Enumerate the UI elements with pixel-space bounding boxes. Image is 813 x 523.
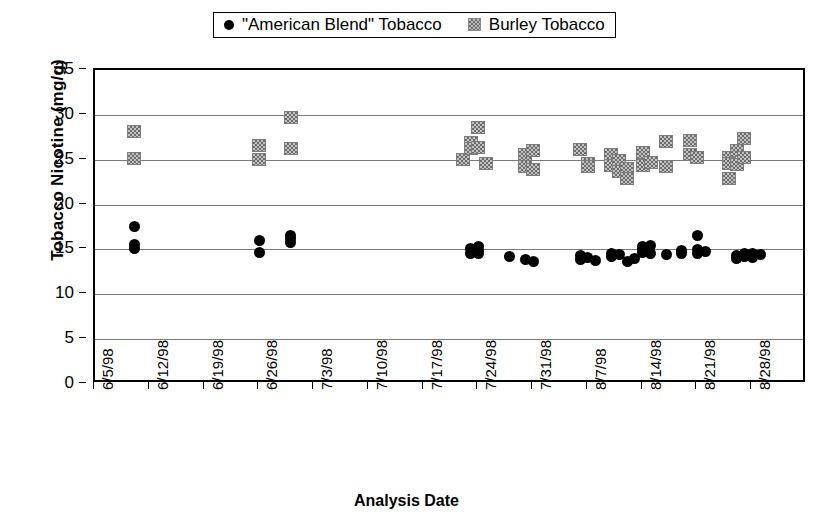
plot-area: [93, 68, 805, 382]
square-marker-icon: [468, 18, 481, 31]
data-point-burley: [526, 163, 540, 176]
x-tick-label: 7/24/98: [482, 340, 499, 390]
data-point-american-blend: [590, 255, 601, 266]
data-point-burley: [252, 139, 266, 152]
x-axis-tick-labels: 6/5/986/12/986/19/986/26/987/3/987/10/98…: [0, 386, 813, 486]
data-point-burley: [737, 151, 751, 164]
data-point-burley: [659, 135, 673, 148]
y-tick-mark: [79, 292, 86, 293]
y-tick-mark: [79, 337, 86, 338]
x-axis-title: Analysis Date: [0, 492, 813, 510]
data-point-american-blend: [254, 235, 265, 246]
data-point-burley: [644, 156, 658, 169]
data-point-american-blend: [692, 230, 703, 241]
data-point-american-blend: [504, 251, 515, 262]
x-tick-label: 8/28/98: [756, 340, 773, 390]
data-point-burley: [722, 172, 736, 185]
x-tick-label: 7/3/98: [318, 348, 335, 390]
x-tick-label: 6/19/98: [209, 340, 226, 390]
data-point-american-blend: [473, 248, 484, 259]
data-point-american-blend: [676, 248, 687, 259]
y-axis-tick-labels: 05101520253035: [0, 68, 86, 382]
data-point-american-blend: [645, 248, 656, 259]
x-tick-label: 8/21/98: [701, 340, 718, 390]
y-tick-label: 30: [55, 104, 74, 121]
x-tick-label: 8/7/98: [592, 348, 609, 390]
data-point-american-blend: [129, 221, 140, 232]
legend-entry-burley: Burley Tobacco: [468, 16, 605, 33]
data-point-burley: [252, 153, 266, 166]
nicotine-scatter-chart: "American Blend" Tobacco Burley Tobacco …: [0, 0, 813, 523]
gridline: [95, 294, 803, 295]
y-tick-label: 20: [55, 194, 74, 211]
data-point-burley: [284, 111, 298, 124]
data-point-burley: [471, 141, 485, 154]
data-point-burley: [683, 134, 697, 147]
data-point-american-blend: [285, 237, 296, 248]
y-tick-label: 25: [55, 149, 74, 166]
y-tick-mark: [79, 203, 86, 204]
legend-label-burley: Burley Tobacco: [489, 16, 605, 33]
data-point-burley: [284, 142, 298, 155]
y-tick-mark: [79, 382, 86, 383]
data-point-burley: [573, 143, 587, 156]
data-point-american-blend: [755, 249, 766, 260]
x-tick-label: 8/14/98: [647, 340, 664, 390]
data-point-burley: [690, 151, 704, 164]
x-tick-label: 6/26/98: [263, 340, 280, 390]
data-point-american-blend: [254, 247, 265, 258]
y-tick-label: 5: [65, 329, 74, 346]
data-point-burley: [581, 160, 595, 173]
y-tick-label: 35: [55, 60, 74, 77]
data-point-american-blend: [700, 246, 711, 257]
x-tick-label: 7/10/98: [373, 340, 390, 390]
circle-marker-icon: [224, 20, 234, 30]
x-tick-label: 6/5/98: [99, 348, 116, 390]
data-point-burley: [456, 153, 470, 166]
chart-legend: "American Blend" Tobacco Burley Tobacco: [213, 12, 616, 38]
data-point-burley: [127, 125, 141, 138]
x-tick-label: 7/17/98: [428, 340, 445, 390]
y-tick-label: 15: [55, 239, 74, 256]
data-point-american-blend: [528, 256, 539, 267]
data-point-burley: [659, 160, 673, 173]
gridline: [95, 115, 803, 116]
data-point-burley: [526, 144, 540, 157]
legend-entry-american-blend: "American Blend" Tobacco: [224, 16, 442, 33]
data-point-burley: [471, 121, 485, 134]
data-point-burley: [737, 132, 751, 145]
data-point-burley: [127, 152, 141, 165]
y-tick-mark: [79, 113, 86, 114]
gridline: [95, 205, 803, 206]
data-point-american-blend: [129, 243, 140, 254]
x-tick-label: 6/12/98: [154, 340, 171, 390]
data-point-burley: [620, 172, 634, 185]
y-tick-mark: [79, 247, 86, 248]
y-tick-label: 10: [55, 284, 74, 301]
gridline: [95, 339, 803, 340]
x-tick-label: 7/31/98: [537, 340, 554, 390]
y-tick-mark: [79, 158, 86, 159]
legend-label-american-blend: "American Blend" Tobacco: [242, 16, 442, 33]
data-point-american-blend: [661, 249, 672, 260]
y-tick-mark: [79, 68, 86, 69]
data-point-burley: [479, 157, 493, 170]
